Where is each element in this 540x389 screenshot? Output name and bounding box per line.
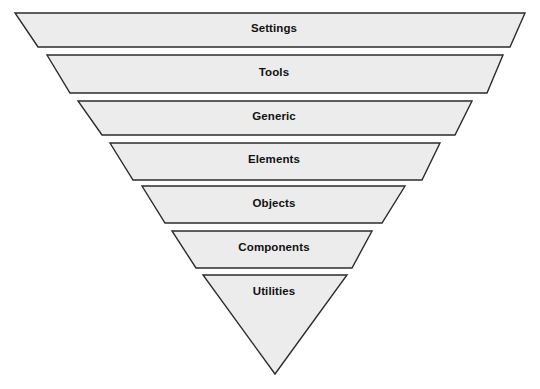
funnel-layer-tools[interactable]: Tools [47,55,503,93]
layer-label-utilities: Utilities [253,285,295,297]
layer-label-components: Components [238,241,309,253]
diagram-canvas: Settings Tools Generic Elements Objects … [0,0,540,389]
funnel-layer-settings[interactable]: Settings [15,13,525,47]
funnel-layer-generic[interactable]: Generic [78,101,472,135]
funnel-layer-elements[interactable]: Elements [110,143,440,180]
layer-label-objects: Objects [253,197,296,209]
layer-label-generic: Generic [252,110,296,122]
inverted-pyramid-diagram: Settings Tools Generic Elements Objects … [0,0,540,389]
layer-label-tools: Tools [259,66,289,78]
funnel-layer-components[interactable]: Components [172,231,372,268]
funnel-layer-objects[interactable]: Objects [142,186,405,223]
layer-label-elements: Elements [248,153,300,165]
layer-label-settings: Settings [251,22,297,34]
funnel-layer-utilities[interactable]: Utilities [203,275,347,374]
